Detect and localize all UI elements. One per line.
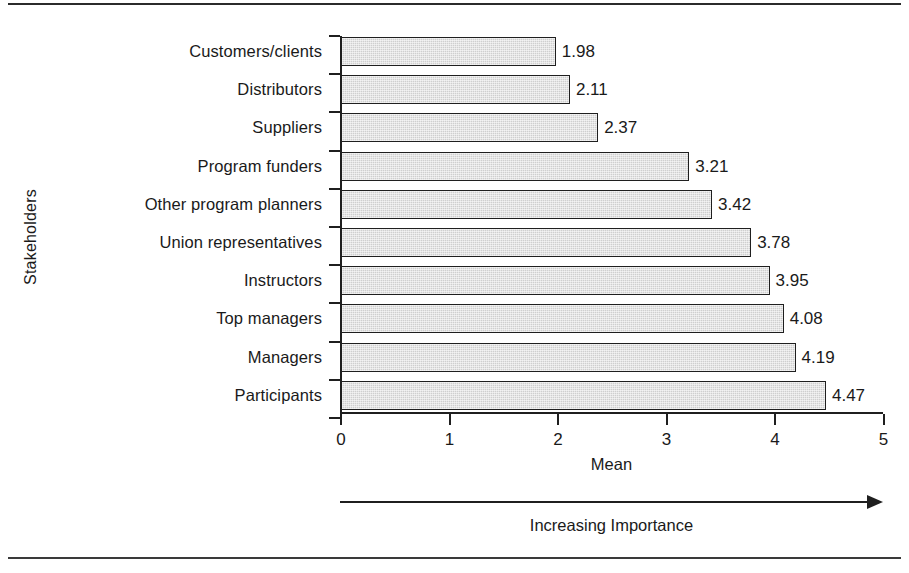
y-axis-tick-end [329,417,340,419]
x-axis-tick-label-2: 2 [538,430,578,450]
bar-1[interactable] [341,37,556,66]
x-axis-tick-4 [774,414,776,425]
bar-value-label-9: 4.19 [802,343,835,372]
x-axis-tick-0 [340,414,342,425]
bar-3[interactable] [341,113,598,142]
bar-value-label-6: 3.78 [757,228,790,257]
bar-10[interactable] [341,381,826,410]
y-axis-tick-10 [329,379,340,381]
bar-7[interactable] [341,266,770,295]
bar-value-label-7: 3.95 [776,266,809,295]
x-axis-tick-1 [449,414,451,425]
bar-value-label-3: 2.37 [604,113,637,142]
category-label-9: Managers [40,347,322,367]
category-label-list: Customers/clientsDistributorsSuppliersPr… [40,30,322,412]
bar-8[interactable] [341,304,784,333]
category-label-8: Top managers [40,308,322,328]
y-axis-tick-4 [329,150,340,152]
category-label-10: Participants [40,385,322,405]
increasing-importance-caption: Increasing Importance [340,516,883,535]
bar-4[interactable] [341,152,689,181]
bar-value-label-5: 3.42 [718,190,751,219]
arrow-head [867,495,883,509]
right-arrow-icon [340,494,883,510]
y-axis-tick-8 [329,302,340,304]
bar-value-label-10: 4.47 [832,381,865,410]
y-axis-tick-3 [329,111,340,113]
x-axis-tick-label-5: 5 [864,430,904,450]
category-label-4: Program funders [40,156,322,176]
x-axis-spine [340,412,883,414]
y-axis-tick-5 [329,188,340,190]
category-label-2: Distributors [40,79,322,99]
bar-chart-figure: Stakeholders Customers/clientsDistributo… [0,0,909,573]
category-label-7: Instructors [40,270,322,290]
category-label-1: Customers/clients [40,41,322,61]
x-axis-tick-3 [666,414,668,425]
x-axis-tick-label-4: 4 [755,430,795,450]
x-axis-tick-label-3: 3 [647,430,687,450]
arrow-shaft [340,501,869,503]
bar-6[interactable] [341,228,751,257]
y-axis-title: Stakeholders [22,132,40,342]
x-axis-title: Mean [340,455,883,474]
x-axis-tick-2 [557,414,559,425]
x-axis-tick-label-0: 0 [321,430,361,450]
y-axis-tick-9 [329,341,340,343]
plot-area: 1.982.112.373.213.423.783.954.084.194.47… [340,30,885,415]
y-axis-tick-1 [329,35,340,37]
bar-value-label-8: 4.08 [790,304,823,333]
category-label-6: Union representatives [40,232,322,252]
y-axis-tick-7 [329,264,340,266]
bar-value-label-4: 3.21 [695,152,728,181]
y-axis-tick-6 [329,226,340,228]
bar-5[interactable] [341,190,712,219]
category-label-3: Suppliers [40,117,322,137]
bar-2[interactable] [341,75,570,104]
bar-9[interactable] [341,343,796,372]
category-label-5: Other program planners [40,194,322,214]
y-axis-tick-2 [329,73,340,75]
x-axis-tick-label-1: 1 [430,430,470,450]
bar-value-label-1: 1.98 [562,37,595,66]
x-axis-tick-5 [883,414,885,425]
bar-value-label-2: 2.11 [576,75,608,104]
